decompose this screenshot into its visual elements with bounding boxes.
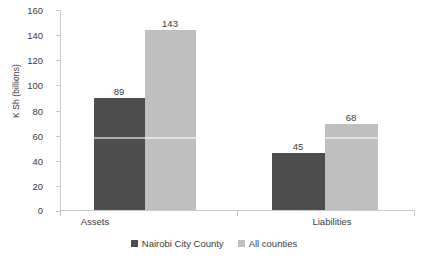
bar-value-assets-nairobi: 89: [99, 87, 139, 97]
y-tick-60: [56, 136, 61, 137]
plot-area: 160 140 120 100 80 60 40 20 0 89 143 45 …: [60, 10, 415, 211]
y-tick-label-80: 80: [0, 107, 43, 117]
y-tick-label-0: 0: [0, 206, 43, 216]
y-tick-120: [56, 60, 61, 61]
bar-assets-nairobi: [94, 98, 145, 210]
y-tick-100: [56, 85, 61, 86]
y-tick-label-120: 120: [0, 56, 43, 66]
y-tick-label-100: 100: [0, 81, 43, 91]
bar-value-liabilities-all: 68: [331, 113, 371, 123]
bar-liabilities-nairobi: [272, 153, 325, 210]
y-tick-140: [56, 35, 61, 36]
bar-chart: K Sh (billions) 160 140 120 100 80 60 40…: [0, 0, 428, 269]
y-tick-label-20: 20: [0, 182, 43, 192]
x-category-label-assets: Assets: [35, 216, 155, 227]
legend-swatch-icon: [238, 240, 245, 247]
bar-assets-all: [145, 30, 196, 210]
y-tick-label-60: 60: [0, 132, 43, 142]
y-tick-40: [56, 161, 61, 162]
x-tick-mid: [237, 211, 238, 216]
legend-label-all-counties: All counties: [249, 239, 298, 249]
x-category-label-liabilities: Liabilities: [272, 216, 392, 227]
x-tick-end: [414, 211, 415, 216]
y-tick-label-140: 140: [0, 31, 43, 41]
y-tick-label-40: 40: [0, 157, 43, 167]
legend-swatch-icon: [131, 240, 138, 247]
y-tick-label-160: 160: [0, 6, 43, 16]
bar-value-assets-all: 143: [150, 19, 190, 29]
bar-liabilities-all: [325, 124, 378, 210]
legend-label-nairobi-city-county: Nairobi City County: [142, 239, 224, 249]
legend-item-nairobi-city-county[interactable]: Nairobi City County: [131, 239, 224, 249]
y-tick-80: [56, 111, 61, 112]
y-tick-160: [56, 10, 61, 11]
y-tick-20: [56, 186, 61, 187]
bar-value-liabilities-nairobi: 45: [278, 142, 318, 152]
legend: Nairobi City County All counties: [0, 239, 428, 249]
legend-item-all-counties[interactable]: All counties: [238, 239, 298, 249]
